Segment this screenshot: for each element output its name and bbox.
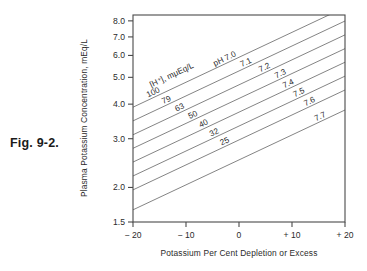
x-axis-tick-label: + 20 (337, 230, 354, 240)
h-concentration-curve-label: 79 (160, 94, 172, 106)
x-axis-tick-label: − 20 (125, 230, 142, 240)
h-concentration-curve-label: 50 (187, 109, 199, 121)
y-axis-tick-label: 6.0 (113, 50, 125, 60)
y-axis-tick-group: 1.52.03.04.05.06.07.08.0 (113, 16, 133, 227)
ph-curve-label: 7.7 (313, 110, 328, 123)
y-axis-title: Plasma Potassium Concentration, mEq/L (79, 39, 89, 197)
ph-curve-label: 7.4 (281, 77, 296, 90)
ph-curve-label: 7.6 (302, 95, 317, 108)
h-concentration-curve-label: 25 (219, 135, 231, 147)
ph-curve-label: pH 7.0 (212, 49, 238, 68)
figure-container: Fig. 9-2. 1.52.03.04.05.06.07.08.0 − 20−… (0, 0, 367, 271)
iso-ph-line (133, 35, 345, 135)
x-axis-tick-label: 0 (237, 230, 242, 240)
y-axis-tick-label: 5.0 (113, 72, 125, 82)
iso-ph-line (133, 110, 345, 210)
plot-frame (133, 15, 345, 222)
h-concentration-curve-label: 40 (197, 117, 209, 129)
ph-curve-label: 7.1 (239, 56, 254, 69)
iso-ph-line (133, 21, 345, 121)
iso-ph-line (133, 76, 345, 176)
h-concentration-curve-label: 63 (174, 101, 186, 113)
x-axis-tick-label: − 10 (178, 230, 195, 240)
ph-curve-label: 7.5 (292, 86, 307, 99)
y-axis-tick-label: 4.0 (113, 99, 125, 109)
y-axis-tick-label: 7.0 (113, 32, 125, 42)
y-axis-tick-label: 3.0 (113, 134, 125, 144)
x-axis-tick-label: + 10 (284, 230, 301, 240)
curve-label-group: pH 7.07.17.27.37.47.57.67.71007963504032… (145, 49, 328, 147)
ph-curve-label: 7.3 (273, 67, 288, 80)
h-concentration-series-header: [H⁺], mμEq/L (148, 61, 195, 90)
iso-ph-line-group (133, 7, 345, 209)
iso-ph-line (133, 7, 345, 107)
h-concentration-curve-label: 32 (208, 126, 220, 138)
y-axis-tick-label: 2.0 (113, 182, 125, 192)
chart-canvas: 1.52.03.04.05.06.07.08.0 − 20− 100+ 10+ … (0, 0, 367, 271)
x-axis-tick-group: − 20− 100+ 10+ 20 (125, 222, 354, 240)
ph-curve-label: 7.2 (257, 61, 272, 74)
y-axis-tick-label: 1.5 (113, 217, 125, 227)
y-axis-tick-label: 8.0 (113, 16, 125, 26)
x-axis-title: Potassium Per Cent Depletion or Excess (161, 248, 318, 258)
